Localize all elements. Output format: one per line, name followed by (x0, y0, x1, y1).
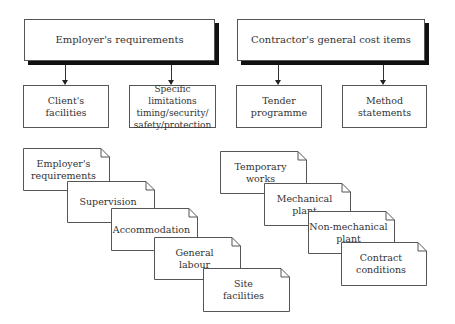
clients-facilities-box: Client's facilities (23, 85, 109, 128)
method-statements-box: Method statements (342, 85, 427, 128)
document-site-facilities: Site facilities (203, 268, 290, 312)
contractors-cost-items-header: Contractor's general cost items (237, 19, 425, 61)
arrow-down-icon (278, 65, 279, 84)
arrow-down-icon (171, 65, 172, 84)
employers-requirements-header: Employer's requirements (24, 19, 215, 61)
document-contract-conditions: Contract conditions (341, 242, 427, 286)
arrow-down-icon (65, 65, 66, 84)
arrow-down-icon (383, 65, 384, 84)
tender-programme-box: Tender programme (236, 85, 322, 128)
specific-limitations-box: Specific limitations timing/security/ sa… (129, 85, 216, 128)
